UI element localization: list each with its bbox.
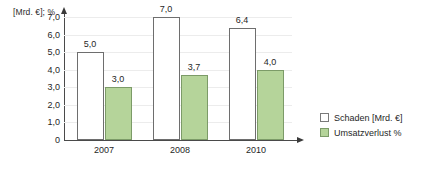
legend-swatch-icon — [320, 113, 329, 122]
y-tick-label: 7,0 — [34, 12, 60, 22]
y-axis-ticks: 01,02,03,04,05,06,07,0 — [30, 17, 60, 140]
legend-item: Schaden [Mrd. €] — [320, 110, 403, 125]
bar-value-label: 6,4 — [236, 15, 249, 25]
bar — [77, 52, 104, 140]
bar-value-label: 5,0 — [84, 39, 97, 49]
y-tick-label: 2,0 — [34, 100, 60, 110]
bar-chart: [Mrd. €]; % 01,02,03,04,05,06,07,0 5,03,… — [0, 0, 432, 172]
x-axis-arrow-icon — [297, 137, 304, 143]
bar — [257, 70, 284, 140]
bar-value-label: 4,0 — [264, 57, 277, 67]
x-axis-line — [64, 140, 298, 141]
bar-value-label: 3,0 — [112, 74, 125, 84]
y-tick-label: 6,0 — [34, 30, 60, 40]
x-tick-label: 2008 — [170, 145, 190, 155]
legend-label: Umsatzverlust % — [334, 128, 402, 138]
bar — [181, 75, 208, 140]
plot-bars: 5,03,07,03,76,44,0 — [64, 17, 292, 140]
bar — [229, 28, 256, 140]
bar-value-label: 3,7 — [188, 62, 201, 72]
bar-value-label: 7,0 — [160, 4, 173, 14]
y-tick-label: 3,0 — [34, 82, 60, 92]
legend-swatch-icon — [320, 128, 329, 137]
y-tick-label: 0 — [34, 135, 60, 145]
chart-legend: Schaden [Mrd. €]Umsatzverlust % — [320, 110, 403, 140]
bar — [105, 87, 132, 140]
y-tick-label: 4,0 — [34, 65, 60, 75]
x-tick-label: 2007 — [94, 145, 114, 155]
y-axis-arrow-icon — [61, 7, 67, 14]
y-tick-label: 5,0 — [34, 47, 60, 57]
x-tick-label: 2010 — [246, 145, 266, 155]
y-tick-label: 1,0 — [34, 117, 60, 127]
legend-label: Schaden [Mrd. €] — [334, 113, 403, 123]
bar — [153, 17, 180, 140]
legend-item: Umsatzverlust % — [320, 125, 403, 140]
